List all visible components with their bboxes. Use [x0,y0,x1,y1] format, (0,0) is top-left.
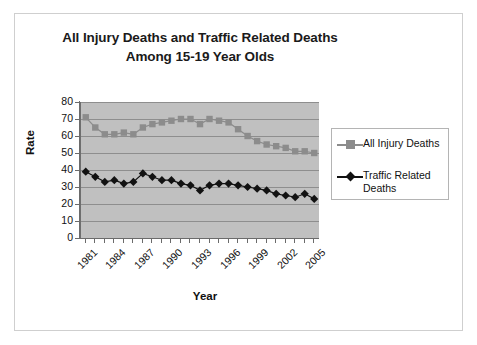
x-tick-mark [275,239,276,243]
data-point-diamond [310,195,318,203]
legend-label-all-injury-deaths: All Injury Deaths [363,137,447,150]
data-point-diamond [82,168,90,176]
x-tick-mark [237,239,238,243]
data-point-diamond [167,176,175,184]
legend-square-marker-icon [337,138,363,151]
data-point-diamond [148,173,156,181]
data-point-square [273,143,279,149]
y-tick-label: 30 [49,181,73,192]
data-point-square [254,138,260,144]
data-point-square [197,121,203,127]
data-point-square [159,119,165,125]
y-tick-mark [75,187,79,188]
chart-title-line1: All Injury Deaths and Traffic Related De… [62,30,337,45]
data-point-square [206,116,212,122]
y-tick-label: 70 [49,113,73,124]
legend-label-traffic-related-deaths: Traffic Related Deaths [363,169,447,195]
y-tick-label: 20 [49,198,73,209]
y-axis-line [79,101,80,239]
y-tick-label: 10 [49,215,73,226]
x-tick-mark [132,239,133,243]
data-point-square [83,114,89,120]
data-point-diamond [91,173,99,181]
data-point-diamond [120,180,128,188]
data-point-diamond [101,178,109,186]
data-point-square [263,141,269,147]
y-axis-title: Rate [24,130,36,155]
data-point-square [102,131,108,137]
data-point-diamond [244,183,252,191]
data-point-diamond [253,185,261,193]
x-tick-mark [161,239,162,243]
legend-entry-all-injury-deaths[interactable]: All Injury Deaths [337,137,447,151]
data-point-diamond [263,186,271,194]
y-tick-mark [75,238,79,239]
y-tick-mark [75,119,79,120]
x-tick-mark [294,239,295,243]
x-tick-mark [151,239,152,243]
data-point-square [121,129,127,135]
y-tick-mark [75,170,79,171]
x-tick-mark [199,239,200,243]
data-point-square [235,126,241,132]
data-point-square [149,121,155,127]
data-point-square [302,148,308,154]
data-point-diamond [272,190,280,198]
y-tick-label: 40 [49,164,73,175]
data-point-diamond [291,193,299,201]
x-tick-mark [189,239,190,243]
y-tick-mark [75,153,79,154]
data-point-square [140,124,146,130]
data-point-square [130,131,136,137]
chart-title-line2: Among 15-19 Year Olds [40,47,360,66]
data-point-square [168,118,174,124]
data-point-diamond [282,191,290,199]
x-tick-mark [180,239,181,243]
data-point-diamond [110,176,118,184]
series-layer [81,102,319,238]
chart-legend: All Injury Deaths Traffic Related Deaths [331,128,449,200]
data-point-diamond [186,181,194,189]
data-point-diamond [215,180,223,188]
y-tick-mark [75,221,79,222]
chart-page: All Injury Deaths and Traffic Related De… [0,0,477,345]
x-tick-mark [170,239,171,243]
data-point-square [216,118,222,124]
data-point-diamond [234,181,242,189]
y-tick-label: 80 [49,96,73,107]
data-point-square [244,133,250,139]
data-point-square [282,145,288,151]
x-axis-title: Year [145,290,265,302]
data-point-diamond [158,176,166,184]
y-tick-label: 50 [49,147,73,158]
y-tick-mark [75,204,79,205]
x-tick-mark [228,239,229,243]
series-line-diamond [86,172,314,199]
y-tick-label: 60 [49,130,73,141]
y-tick-mark [75,136,79,137]
data-point-diamond [205,181,213,189]
x-tick-mark [313,239,314,243]
data-point-square [92,124,98,130]
y-tick-mark [75,102,79,103]
x-tick-mark [218,239,219,243]
x-tick-mark [123,239,124,243]
legend-entry-traffic-related-deaths[interactable]: Traffic Related Deaths [337,169,447,195]
x-tick-mark [113,239,114,243]
x-tick-mark [209,239,210,243]
data-point-square [292,148,298,154]
legend-diamond-marker-icon [337,170,363,183]
data-point-square [225,119,231,125]
x-tick-mark [104,239,105,243]
x-tick-mark [94,239,95,243]
x-tick-mark [256,239,257,243]
data-point-diamond [224,180,232,188]
x-tick-mark [266,239,267,243]
data-point-diamond [196,186,204,194]
chart-title: All Injury Deaths and Traffic Related De… [40,28,360,66]
data-point-diamond [177,180,185,188]
data-point-square [311,150,317,156]
plot-area [80,102,319,238]
x-tick-mark [304,239,305,243]
y-tick-label: 0 [49,232,73,243]
